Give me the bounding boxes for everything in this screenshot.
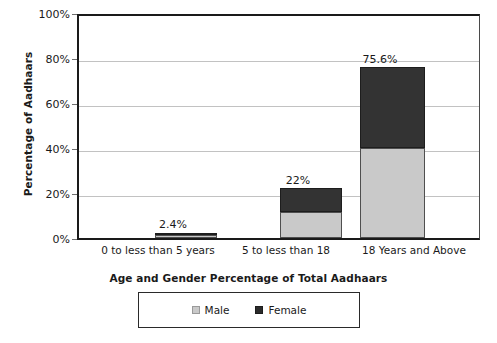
bar-value-label: 75.6% xyxy=(330,54,430,66)
bar-group[interactable] xyxy=(155,233,217,238)
bar-group[interactable] xyxy=(360,67,425,238)
bar-segment-female[interactable] xyxy=(155,233,217,236)
y-tick-label: 40% xyxy=(8,144,70,155)
bar-segment-male[interactable] xyxy=(155,235,217,238)
bar-segment-female[interactable] xyxy=(360,67,425,148)
bar-chart: Percentage of Aadhaars 100% 80% 60% 40% … xyxy=(0,0,497,343)
bar-group[interactable] xyxy=(280,188,342,238)
bar-value-label: 22% xyxy=(248,175,348,187)
legend-label-male: Male xyxy=(205,305,230,316)
bar-value-label: 2.4% xyxy=(123,219,223,231)
y-tick-label: 20% xyxy=(8,189,70,200)
bar-segment-male[interactable] xyxy=(280,212,342,238)
bar-segment-male[interactable] xyxy=(360,148,425,238)
x-tick-label: 18 Years and Above xyxy=(348,244,480,256)
x-tick-label: 5 to less than 18 xyxy=(222,244,350,256)
y-tick-label: 60% xyxy=(8,99,70,110)
legend: Male Female xyxy=(138,292,360,328)
y-tick-label: 100% xyxy=(8,9,70,20)
legend-swatch-male-icon xyxy=(192,306,200,314)
x-tick-label: 0 to less than 5 years xyxy=(88,244,228,256)
y-tick-label: 80% xyxy=(8,54,70,65)
legend-swatch-female-icon xyxy=(255,306,263,314)
legend-item-female[interactable]: Female xyxy=(255,305,306,316)
y-tick-label: 0% xyxy=(8,234,70,245)
legend-label-female: Female xyxy=(268,305,306,316)
bar-segment-female[interactable] xyxy=(280,188,342,211)
x-axis-title: Age and Gender Percentage of Total Aadha… xyxy=(0,272,497,284)
legend-item-male[interactable]: Male xyxy=(192,305,230,316)
plot-area xyxy=(77,14,480,240)
